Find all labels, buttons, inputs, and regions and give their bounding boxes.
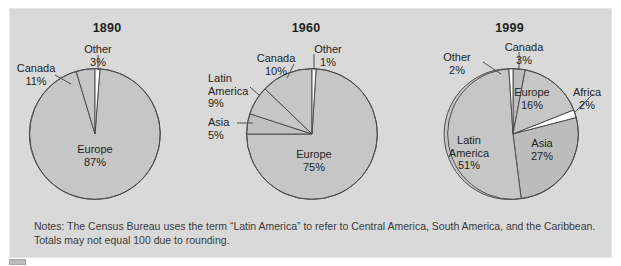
pie-1960-label-canada-name: Canada: [248, 52, 304, 65]
pie-1999-label-africa-value: 2%: [563, 99, 611, 112]
pie-1960-label-other-value: 1%: [295, 56, 361, 69]
chart-1960: 1960 Other 1%: [205, 8, 407, 223]
figure-footer-mark: [9, 259, 26, 265]
chart-panel: 1890 Other 3% Canada 1: [9, 8, 612, 258]
chart-notes-line-2: Totals may not equal 100 due to rounding…: [34, 233, 589, 247]
pie-1960-label-latin-america-value: 9%: [208, 97, 264, 110]
pie-1960-label-asia-value: 5%: [208, 129, 244, 142]
pie-1999-label-latin-america-name-1: Latin: [435, 134, 503, 147]
pie-1960-label-latin-america-name-1: Latin: [208, 72, 264, 85]
pie-1890-label-europe: Europe 87%: [61, 143, 129, 168]
pie-1890-label-canada-name: Canada: [7, 62, 65, 75]
pie-1999-label-canada-name: Canada: [491, 41, 557, 54]
pie-1999-label-asia-name: Asia: [518, 137, 566, 150]
pie-1960-label-other: Other 1%: [295, 43, 361, 68]
pie-1960-label-europe-value: 75%: [280, 161, 348, 174]
pie-1960-label-latin-america: Latin America 9%: [208, 72, 264, 110]
pie-1960-label-asia: Asia 5%: [208, 116, 244, 141]
pie-1890-label-europe-name: Europe: [61, 143, 129, 156]
pie-1999-label-canada-value: 3%: [491, 54, 557, 67]
pie-1960-label-europe-name: Europe: [280, 148, 348, 161]
pie-1999-label-other-name: Other: [429, 51, 485, 64]
pie-chart-figure: 1890 Other 3% Canada 1: [0, 0, 621, 266]
pie-1999-label-africa: Africa 2%: [563, 86, 611, 111]
pie-1960-label-latin-america-name-2: America: [208, 85, 264, 98]
pie-1999-label-asia-value: 27%: [518, 150, 566, 163]
pie-1960-label-asia-name: Asia: [208, 116, 244, 129]
pie-1960-label-europe: Europe 75%: [280, 148, 348, 173]
pie-1890-label-other-value: 3%: [57, 56, 139, 69]
pie-1890-label-canada: Canada 11%: [7, 62, 65, 87]
pie-1960-label-other-name: Other: [295, 43, 361, 56]
pie-1999-label-europe: Europe 16%: [502, 86, 562, 111]
pie-1999-label-other-value: 2%: [429, 64, 485, 77]
pie-1999-label-canada: Canada 3%: [491, 41, 557, 66]
pie-1999-label-latin-america-name-2: America: [435, 147, 503, 160]
chart-1890: 1890 Other 3% Canada 1: [9, 8, 205, 223]
pie-1890-label-canada-value: 11%: [7, 75, 65, 88]
pie-1999-label-asia: Asia 27%: [518, 137, 566, 162]
pie-1890-label-other: Other 3%: [57, 43, 139, 68]
pie-1999-label-latin-america-value: 51%: [435, 159, 503, 172]
pie-1999-label-latin-america: Latin America 51%: [435, 134, 503, 172]
pie-1890-graphic: [9, 8, 205, 223]
pie-1999-label-other: Other 2%: [429, 51, 485, 76]
pie-1999-label-europe-name: Europe: [502, 86, 562, 99]
chart-1999: 1999 Canada: [407, 8, 612, 223]
pie-1890-label-europe-value: 87%: [61, 156, 129, 169]
pie-1999-label-europe-value: 16%: [502, 99, 562, 112]
chart-notes: Notes: The Census Bureau uses the term “…: [34, 219, 589, 247]
pie-1999-label-africa-name: Africa: [563, 86, 611, 99]
pie-1890-label-other-name: Other: [57, 43, 139, 56]
chart-notes-line-1: Notes: The Census Bureau uses the term “…: [34, 219, 589, 233]
